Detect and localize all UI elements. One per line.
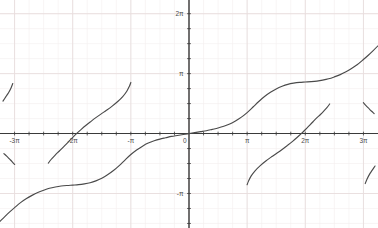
y-axis-tick-label: π bbox=[179, 70, 184, 77]
origin-label: 0 bbox=[183, 137, 187, 144]
x-axis-tick-label: -2π bbox=[68, 137, 79, 144]
y-axis-tick-label: 2π bbox=[175, 10, 184, 17]
y-axis-tick-label: -π bbox=[177, 190, 184, 197]
x-axis-tick-label: -π bbox=[128, 137, 135, 144]
chart-svg: -3π-2π-π0π2π3π-ππ2π bbox=[0, 0, 378, 228]
x-axis-tick-label: π bbox=[245, 137, 250, 144]
x-axis-tick-label: -3π bbox=[9, 137, 20, 144]
chart-figure: -3π-2π-π0π2π3π-ππ2π bbox=[0, 0, 378, 228]
x-axis-tick-label: 3π bbox=[359, 137, 368, 144]
x-axis-tick-label: 2π bbox=[301, 137, 310, 144]
